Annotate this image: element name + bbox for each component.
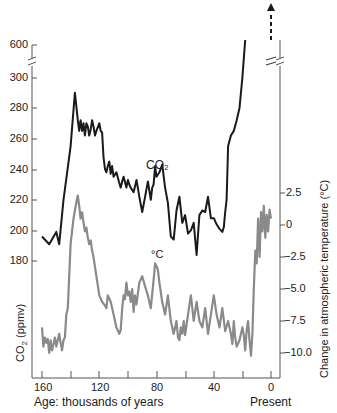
y-left-tick: 280	[0, 101, 28, 113]
x-tick: 120	[91, 381, 109, 393]
y-right-tick: −7.5	[284, 314, 306, 326]
left-axis	[28, 45, 37, 378]
temperature-series-line	[42, 196, 271, 356]
y-left-axis-label: CO2 (ppmv)	[14, 304, 29, 362]
y-left-tick: 180	[0, 254, 28, 266]
y-right-tick: 2.5	[286, 186, 301, 198]
y-right-axis-label: Change in atmospheric temperature (°C)	[318, 180, 330, 378]
temperature-series-label: °C	[151, 248, 163, 260]
x-tick: 0	[268, 381, 274, 393]
co2-axis-break-marker	[266, 57, 276, 65]
x-axis-label: Age: thousands of years	[34, 395, 163, 409]
co2-series-label: CO₂	[146, 158, 169, 172]
y-left-tick: 600	[0, 38, 28, 50]
arrow-up-icon	[267, 3, 275, 11]
x-tick: 80	[151, 381, 163, 393]
y-left-tick: 260	[0, 132, 28, 144]
y-right-tick: −10.0	[284, 346, 312, 358]
x-tick: 40	[208, 381, 220, 393]
y-right-tick: −2.5	[284, 250, 306, 262]
x-axis	[32, 371, 280, 378]
y-left-tick: 240	[0, 163, 28, 175]
y-left-tick: 220	[0, 193, 28, 205]
y-right-tick: 0	[286, 218, 292, 230]
x-tick: 160	[34, 381, 52, 393]
y-left-tick: 300	[0, 71, 28, 83]
y-left-tick: 200	[0, 224, 28, 236]
x-axis-present-label: Present	[250, 395, 291, 409]
right-axis	[276, 40, 285, 378]
y-right-tick: −5.0	[284, 282, 306, 294]
